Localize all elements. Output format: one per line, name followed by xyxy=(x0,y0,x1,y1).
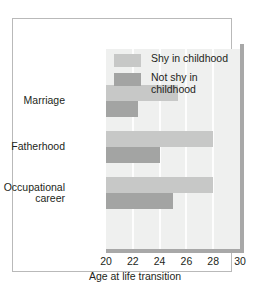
x-tick-label: 20 xyxy=(93,255,119,267)
legend-item-not-shy: Not shy in childhood xyxy=(114,72,242,95)
x-tick-label: 26 xyxy=(173,255,199,267)
legend-item-shy: Shy in childhood xyxy=(114,53,242,67)
legend-label-not-shy: Not shy in childhood xyxy=(151,72,198,95)
chart-legend: Shy in childhood Not shy in childhood xyxy=(114,53,242,100)
legend-swatch-not-shy-icon xyxy=(114,73,141,86)
x-axis-title: Age at life transition xyxy=(25,270,245,282)
legend-swatch-shy-icon xyxy=(114,54,141,67)
x-tick-label: 22 xyxy=(120,255,146,267)
figure-frame: MarriageFatherhoodOccupational career 20… xyxy=(12,18,232,272)
x-tick-label: 28 xyxy=(200,255,226,267)
x-tick-label: 24 xyxy=(147,255,173,267)
x-tick-label: 30 xyxy=(227,255,253,267)
legend-label-shy: Shy in childhood xyxy=(151,53,228,65)
